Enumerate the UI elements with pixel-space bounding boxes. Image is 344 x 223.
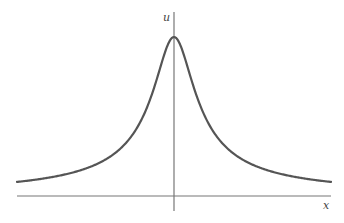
function-plot: u x xyxy=(0,0,344,223)
y-axis-label: u xyxy=(163,11,170,24)
x-axis-label: x xyxy=(323,199,330,212)
